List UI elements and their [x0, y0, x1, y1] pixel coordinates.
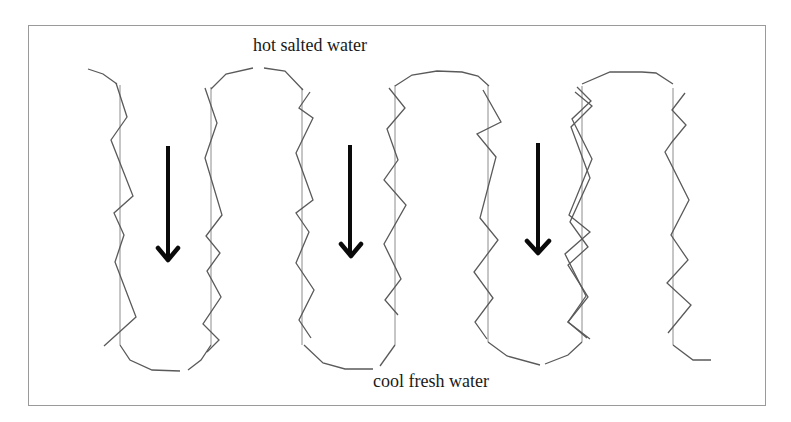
bottom-caps: [120, 342, 711, 371]
diagram-canvas: hot salted water cool fresh water: [0, 0, 791, 422]
serpentine-channel-diagram: [0, 0, 791, 422]
flow-arrow-2: [341, 145, 361, 256]
channel-walls: [120, 85, 673, 345]
flow-arrow-1: [158, 146, 178, 261]
flow-arrow-3: [527, 143, 549, 253]
hot-salted-water-label: hot salted water: [253, 36, 367, 54]
top-caps: [88, 68, 673, 90]
cool-fresh-water-label: cool fresh water: [373, 372, 489, 390]
zigzag-walls: [104, 83, 691, 352]
